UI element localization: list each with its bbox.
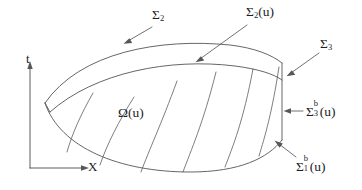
sigma1bu-scripts: b1 bbox=[304, 157, 310, 171]
left-tip-join bbox=[45, 103, 50, 112]
hatch-line bbox=[225, 69, 253, 167]
sigma-glyph: Σ bbox=[246, 5, 254, 19]
sigma-glyph: Σ bbox=[306, 105, 314, 119]
leader-sigma2u bbox=[200, 25, 247, 59]
leader-group bbox=[124, 25, 320, 157]
sigma3-label: Σ3 bbox=[320, 37, 332, 52]
sigma-glyph: Σ bbox=[152, 8, 160, 22]
omega-argument: (u) bbox=[128, 105, 144, 120]
sigma2u-argument: (u) bbox=[258, 4, 274, 19]
x-axis-label: X bbox=[88, 160, 97, 173]
leader-sigma2 bbox=[128, 27, 152, 41]
leader-sigma1bu bbox=[279, 144, 296, 157]
outer-top-curve-sigma2 bbox=[45, 43, 282, 103]
sigma3-subscript: 3 bbox=[328, 42, 332, 52]
figure-canvas: t X Ω(u) Σ2 Σ2(u) Σ3 Σb3(u) Σb1(u) bbox=[0, 0, 362, 190]
sigma3bu-scripts: b3 bbox=[314, 102, 320, 116]
hatch-line bbox=[141, 81, 177, 172]
sigma1bu-superscript: b bbox=[304, 154, 308, 163]
hatch-line bbox=[183, 72, 216, 172]
sigma1bu-argument: (u) bbox=[310, 159, 326, 174]
omega-glyph: Ω bbox=[118, 106, 128, 120]
sigma-glyph: Σ bbox=[296, 160, 304, 174]
domain-outline-group bbox=[45, 43, 282, 172]
sigma3bu-argument: (u) bbox=[320, 104, 336, 119]
sigma2-u-label: Σ2(u) bbox=[246, 5, 274, 20]
leader-sigma3bu-arrowhead bbox=[284, 108, 292, 113]
sigma3-b-u-label: Σb3(u) bbox=[306, 102, 336, 118]
inner-top-curve-sigma2u bbox=[50, 64, 282, 112]
sigma1bu-subscript: 1 bbox=[304, 164, 308, 173]
bottom-curve-sigma1b bbox=[45, 103, 282, 172]
sigma3bu-subscript: 3 bbox=[314, 109, 318, 118]
sigma2-subscript: 2 bbox=[160, 13, 164, 23]
sigma2-label: Σ2 bbox=[152, 8, 164, 23]
axes-group bbox=[27, 61, 89, 171]
t-axis-label: t bbox=[26, 52, 30, 65]
hatch-line bbox=[67, 93, 93, 152]
sigma3bu-superscript: b bbox=[314, 99, 318, 108]
sigma-glyph: Σ bbox=[320, 37, 328, 51]
sigma1-b-u-label: Σb1(u) bbox=[296, 157, 326, 173]
leader-sigma3 bbox=[291, 53, 319, 73]
omega-u-label: Ω(u) bbox=[118, 106, 144, 120]
